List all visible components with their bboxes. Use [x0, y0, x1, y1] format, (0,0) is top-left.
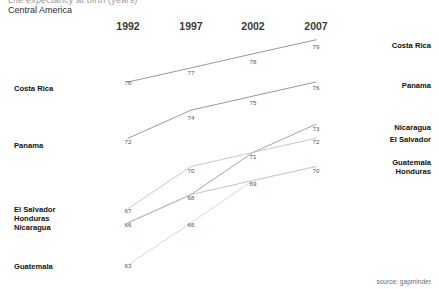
- point-value-guatemala-2002: 69: [250, 180, 257, 187]
- right-label-panama: Panama: [402, 81, 431, 91]
- point-value-guatemala-1997: 66: [188, 221, 195, 228]
- series-line-nicaragua: [128, 124, 316, 223]
- right-label-costa-rica: Costa Rica: [392, 41, 431, 51]
- left-label-costa-rica: Costa Rica: [14, 84, 53, 94]
- left-label-nicaragua: Nicaragua: [14, 223, 51, 233]
- point-value-nicaragua-2007: 73: [313, 125, 320, 132]
- point-value-costa-rica-1992: 76: [125, 79, 132, 86]
- point-value-costa-rica-2007: 79: [313, 43, 320, 50]
- series-line-guatemala: [128, 167, 316, 266]
- point-value-nicaragua-1992: 66: [125, 221, 132, 228]
- slope-lines: [0, 0, 439, 289]
- point-value-nicaragua-1997: 68: [188, 194, 195, 201]
- point-value-panama-2007: 76: [313, 84, 320, 91]
- series-line-panama: [128, 82, 316, 138]
- left-label-panama: Panama: [14, 141, 43, 151]
- left-label-guatemala: Guatemala: [14, 262, 53, 272]
- point-value-panama-1992: 72: [125, 138, 132, 145]
- source-note: source: gapminder: [376, 278, 431, 285]
- series-line-honduras: [128, 167, 316, 223]
- point-value-costa-rica-2002: 78: [250, 58, 257, 65]
- point-value-panama-1997: 74: [188, 114, 195, 121]
- right-label-el-salvador: El Salvador: [390, 135, 431, 145]
- chart-canvas: Life expectancy at birth (years) Central…: [0, 0, 439, 289]
- right-label-honduras: Honduras: [396, 167, 431, 177]
- point-value-el-salvador-2002: 71: [250, 153, 257, 160]
- right-label-nicaragua: Nicaragua: [394, 123, 431, 133]
- point-value-guatemala-2007: 70: [313, 167, 320, 174]
- point-value-el-salvador-1992: 67: [125, 207, 132, 214]
- point-value-guatemala-1992: 63: [125, 262, 132, 269]
- point-value-el-salvador-1997: 70: [188, 167, 195, 174]
- point-value-costa-rica-1997: 77: [188, 69, 195, 76]
- point-value-el-salvador-2007: 72: [313, 138, 320, 145]
- series-line-costa-rica: [128, 40, 316, 82]
- point-value-panama-2002: 75: [250, 99, 257, 106]
